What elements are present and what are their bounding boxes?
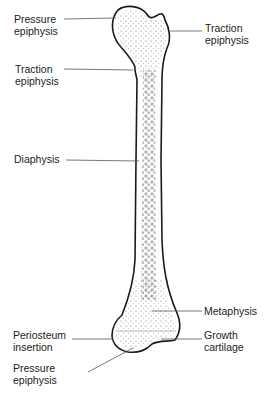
label-pressure-epiphysis-top: Pressure epiphysis <box>14 13 58 37</box>
label-pressure-epiphysis-bottom: Pressure epiphysis <box>13 362 57 386</box>
label-traction-epiphysis-right: Traction epiphysis <box>205 22 249 46</box>
label-metaphysis: Metaphysis <box>204 305 257 317</box>
label-diaphysis: Diaphysis <box>14 153 60 165</box>
label-growth-cartilage: Growth cartilage <box>204 329 244 353</box>
label-periosteum-insertion: Periosteum insertion <box>13 329 66 353</box>
label-traction-epiphysis-left: Traction epiphysis <box>15 63 59 87</box>
